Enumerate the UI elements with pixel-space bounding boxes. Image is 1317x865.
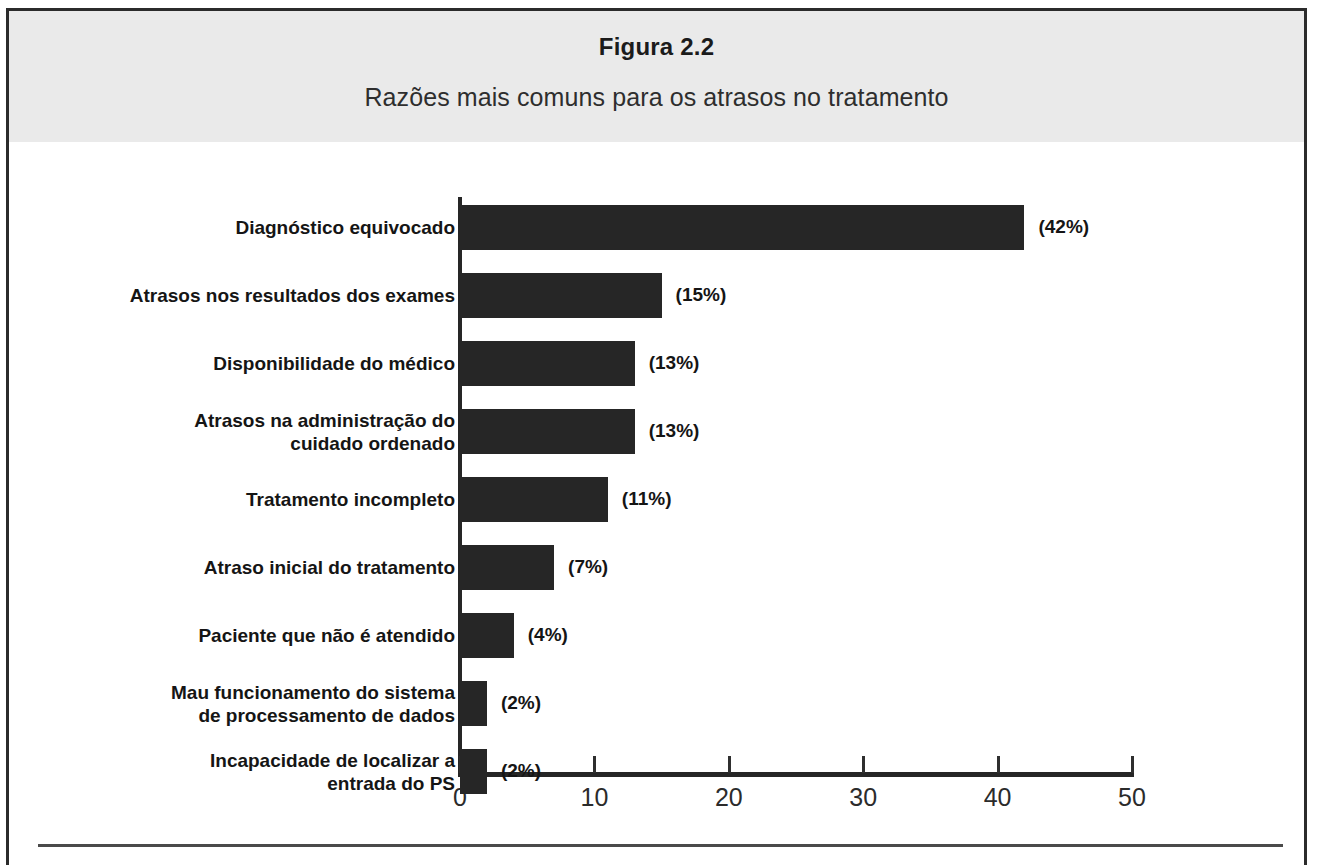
- figure-border: [6, 8, 1307, 865]
- figure-container: Figura 2.2 Razões mais comuns para os at…: [0, 0, 1317, 865]
